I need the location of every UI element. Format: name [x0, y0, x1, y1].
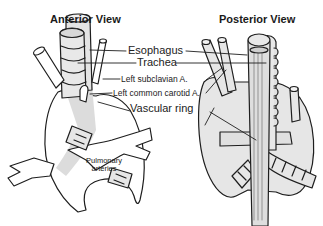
anterior-view-title: Anterior View: [50, 13, 121, 25]
label-esophagus: Esophagus: [128, 45, 183, 56]
label-left-subclavian: Left subclavian A.: [121, 75, 188, 84]
label-pulmonary-line2: arteries: [91, 164, 116, 173]
anterior-right-pulmonary: [8, 158, 54, 186]
label-vascular-ring: Vascular ring: [130, 103, 193, 114]
posterior-esophagus: [248, 36, 270, 226]
posterior-view-title: Posterior View: [219, 13, 295, 25]
posterior-right-subclavian: [290, 88, 300, 122]
anterior-left-subclavian: [92, 40, 106, 84]
anterior-left-carotid: [80, 86, 88, 103]
label-trachea: Trachea: [137, 57, 177, 68]
label-pulmonary-arteries: Pulmonary arteries: [74, 157, 134, 173]
label-left-common-carotid: Left common carotid A.: [113, 89, 200, 98]
